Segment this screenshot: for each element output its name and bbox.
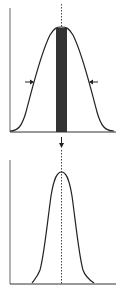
central-band bbox=[56, 28, 67, 132]
bottom-panel bbox=[10, 150, 116, 284]
arrow-left-icon bbox=[89, 80, 98, 85]
diagram-canvas bbox=[0, 0, 124, 298]
arrow-down-icon bbox=[59, 137, 64, 148]
narrow-bell-curve bbox=[32, 172, 94, 283]
arrow-right-icon bbox=[25, 80, 34, 85]
top-panel bbox=[10, 4, 116, 132]
